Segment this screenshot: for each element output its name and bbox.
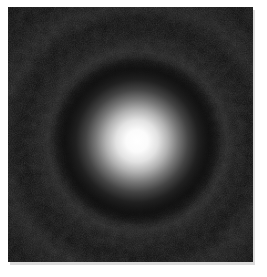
central-airy-disk <box>53 57 221 225</box>
diffraction-pattern-photo <box>8 7 253 262</box>
diffraction-pattern-canvas <box>8 7 253 262</box>
page-background <box>0 0 267 277</box>
